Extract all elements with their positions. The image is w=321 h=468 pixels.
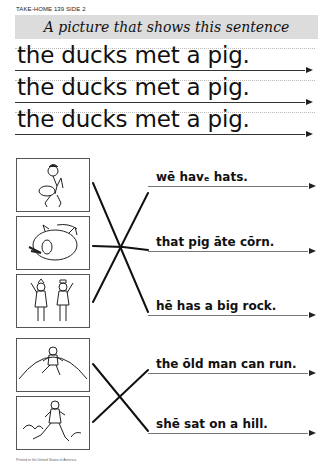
old-man-running-icon	[17, 397, 89, 449]
answer-sentence-text: shē sat on a hill.	[156, 417, 268, 431]
picture-pig-eating-corn[interactable]	[16, 216, 90, 270]
answer-line	[148, 433, 308, 434]
copy-sentence-row: the ducks met a pig.	[15, 108, 315, 138]
picture-two-children-hats[interactable]	[16, 274, 90, 328]
copy-sentence-row: the ducks met a pig.	[15, 76, 315, 106]
match-line-hats	[93, 193, 148, 302]
answer-sentence-row: hē has a big rock.	[148, 299, 316, 319]
instruction-banner: A picture that shows this sentence	[15, 15, 318, 39]
copy-sentence-text: the ducks met a pig.	[17, 74, 250, 100]
answer-sentence-text: wē havₑ hats.	[156, 170, 248, 184]
match-line-run	[93, 370, 148, 422]
arrow-icon	[309, 370, 316, 376]
match-line-pig	[93, 246, 148, 250]
picture-boy-lifting-rock[interactable]	[16, 158, 90, 212]
baseline	[15, 70, 305, 71]
arrow-icon	[309, 248, 316, 254]
copy-sentence-text: the ducks met a pig.	[17, 106, 250, 132]
footer-printed-note: Printed in the United States of America	[16, 458, 76, 462]
arrow-icon	[309, 183, 316, 189]
match-line-rock	[93, 183, 148, 312]
girl-on-hill-icon	[17, 339, 89, 391]
arrow-icon	[309, 430, 316, 436]
arrow-icon	[306, 67, 313, 73]
answer-line	[148, 373, 308, 374]
match-line-hill	[93, 364, 148, 431]
arrow-icon	[306, 99, 313, 105]
copy-sentence-row: the ducks met a pig.	[15, 44, 315, 74]
answer-sentence-text: that pig āte cōrn.	[156, 235, 274, 249]
picture-old-man-running[interactable]	[16, 396, 90, 450]
instruction-title: A picture that shows this sentence	[44, 19, 290, 35]
arrow-icon	[309, 312, 316, 318]
answer-line	[148, 186, 308, 187]
page-header-label: TAKE-HOME 139 SIDE 2	[16, 6, 86, 12]
answer-sentence-row: the ōld man can run.	[148, 357, 316, 377]
two-children-hats-icon	[17, 275, 89, 327]
answer-line	[148, 251, 308, 252]
copy-sentence-text: the ducks met a pig.	[17, 42, 250, 68]
answer-line	[148, 315, 308, 316]
answer-sentence-row: that pig āte cōrn.	[148, 235, 316, 255]
answer-sentence-text: hē has a big rock.	[156, 299, 276, 313]
boy-lifting-rock-icon	[17, 159, 89, 211]
answer-sentence-text: the ōld man can run.	[156, 357, 297, 371]
answer-sentence-row: wē havₑ hats.	[148, 170, 316, 190]
baseline	[15, 102, 305, 103]
answer-sentence-row: shē sat on a hill.	[148, 417, 316, 437]
baseline	[15, 134, 305, 135]
picture-girl-on-hill[interactable]	[16, 338, 90, 392]
pig-eating-corn-icon	[17, 217, 89, 269]
arrow-icon	[306, 131, 313, 137]
